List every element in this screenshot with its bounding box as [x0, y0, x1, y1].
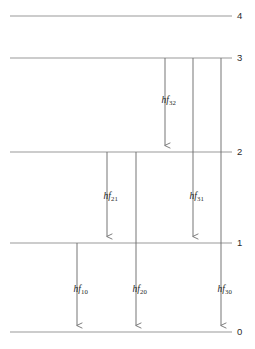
transition-hf30-label: hf30 [0, 285, 232, 295]
transition-hf31-label: hf31 [0, 192, 204, 202]
energy-level-diagram: 43210hf32hf21hf31hf10hf20hf30 [0, 0, 255, 349]
transition-hf32-label: hf32 [0, 96, 176, 106]
level-2-label: 2 [237, 147, 242, 157]
transition-hf30-subscript: 30 [225, 288, 232, 295]
transition-hf32-subscript: 32 [169, 99, 176, 106]
transition-hf30-symbol: hf [218, 284, 225, 294]
level-4-label: 4 [237, 11, 242, 21]
diagram-canvas [0, 0, 255, 349]
transition-hf32-symbol: hf [162, 95, 169, 105]
transition-hf31-symbol: hf [190, 191, 197, 201]
level-1-label: 1 [237, 238, 242, 248]
level-0-label: 0 [237, 327, 242, 337]
level-3-label: 3 [237, 53, 242, 63]
transition-hf31-subscript: 31 [197, 195, 204, 202]
